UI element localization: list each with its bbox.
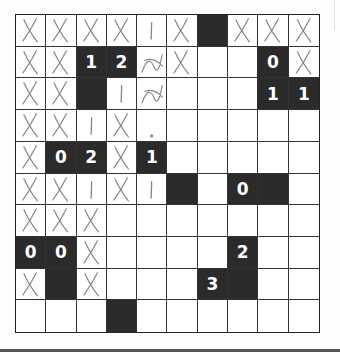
grid-cell[interactable] bbox=[198, 300, 228, 332]
clue-cell: 0 bbox=[46, 237, 76, 269]
clue-cell: 2 bbox=[107, 47, 137, 79]
clue-cell: 0 bbox=[258, 47, 288, 79]
grid-cell[interactable] bbox=[167, 237, 197, 269]
grid-cell[interactable] bbox=[228, 205, 258, 237]
grid-cell[interactable] bbox=[228, 142, 258, 174]
black-cell bbox=[258, 174, 288, 206]
grid-cell[interactable] bbox=[289, 205, 319, 237]
grid-cell[interactable] bbox=[77, 205, 107, 237]
black-cell bbox=[167, 174, 197, 206]
grid-cell[interactable] bbox=[258, 110, 288, 142]
grid-cell[interactable] bbox=[198, 174, 228, 206]
grid-cell[interactable] bbox=[167, 78, 197, 110]
grid-cell[interactable] bbox=[46, 110, 76, 142]
grid-cell[interactable] bbox=[167, 47, 197, 79]
grid-cell[interactable] bbox=[46, 205, 76, 237]
grid-cell[interactable] bbox=[258, 237, 288, 269]
cross-mark-icon bbox=[16, 142, 45, 173]
grid-cell[interactable] bbox=[258, 15, 288, 47]
cross-mark-icon bbox=[77, 15, 106, 46]
grid-cell[interactable] bbox=[258, 300, 288, 332]
grid-cell[interactable] bbox=[198, 47, 228, 79]
grid-cell[interactable] bbox=[46, 174, 76, 206]
grid-cell[interactable] bbox=[46, 47, 76, 79]
grid-cell[interactable] bbox=[289, 300, 319, 332]
grid-cell[interactable] bbox=[77, 237, 107, 269]
grid-cell[interactable] bbox=[167, 269, 197, 301]
grid-cell[interactable] bbox=[228, 78, 258, 110]
grid-cell[interactable] bbox=[107, 237, 137, 269]
grid-cell[interactable] bbox=[137, 47, 167, 79]
grid-cell[interactable] bbox=[107, 142, 137, 174]
grid-cell[interactable] bbox=[16, 110, 46, 142]
grid-cell[interactable] bbox=[77, 110, 107, 142]
grid-cell[interactable] bbox=[107, 15, 137, 47]
grid-cell[interactable] bbox=[137, 205, 167, 237]
cross-mark-icon bbox=[16, 47, 45, 78]
grid-cell[interactable] bbox=[16, 174, 46, 206]
grid-cell[interactable] bbox=[137, 78, 167, 110]
grid-cell[interactable] bbox=[258, 269, 288, 301]
grid-cell[interactable] bbox=[137, 269, 167, 301]
line-mark-icon bbox=[77, 110, 106, 141]
grid-cell[interactable] bbox=[77, 174, 107, 206]
grid-cell[interactable] bbox=[228, 110, 258, 142]
grid-cell[interactable] bbox=[107, 110, 137, 142]
grid-cell[interactable] bbox=[46, 78, 76, 110]
grid-cell[interactable] bbox=[77, 269, 107, 301]
grid-cell[interactable] bbox=[77, 300, 107, 332]
grid-cell[interactable] bbox=[228, 15, 258, 47]
grid-cell[interactable] bbox=[107, 174, 137, 206]
grid-cell[interactable] bbox=[137, 15, 167, 47]
grid-cell[interactable] bbox=[289, 237, 319, 269]
clue-number: 1 bbox=[298, 84, 310, 104]
grid-cell[interactable] bbox=[198, 205, 228, 237]
grid-cell[interactable] bbox=[167, 205, 197, 237]
cross-mark-icon bbox=[16, 15, 45, 46]
grid-cell[interactable] bbox=[16, 300, 46, 332]
grid-cell[interactable] bbox=[16, 47, 46, 79]
grid-cell[interactable] bbox=[289, 269, 319, 301]
grid-cell[interactable] bbox=[16, 205, 46, 237]
grid-cell[interactable] bbox=[46, 15, 76, 47]
cross-mark-icon bbox=[77, 205, 106, 236]
grid-cell[interactable] bbox=[137, 174, 167, 206]
grid-cell[interactable] bbox=[107, 269, 137, 301]
grid-cell[interactable] bbox=[167, 15, 197, 47]
grid-cell[interactable] bbox=[137, 300, 167, 332]
grid-cell[interactable] bbox=[16, 142, 46, 174]
grid-cell[interactable] bbox=[289, 110, 319, 142]
grid-cell[interactable] bbox=[137, 237, 167, 269]
clue-number: 0 bbox=[267, 52, 279, 72]
grid-cell[interactable] bbox=[198, 110, 228, 142]
grid-cell[interactable] bbox=[16, 269, 46, 301]
scribble-mark-icon bbox=[137, 78, 166, 109]
grid-cell[interactable] bbox=[107, 205, 137, 237]
grid-cell[interactable] bbox=[46, 300, 76, 332]
grid-cell[interactable] bbox=[167, 110, 197, 142]
grid-cell[interactable] bbox=[198, 78, 228, 110]
grid-cell[interactable] bbox=[167, 300, 197, 332]
grid-cell[interactable] bbox=[16, 15, 46, 47]
grid-cell[interactable] bbox=[198, 237, 228, 269]
grid-cell[interactable] bbox=[289, 47, 319, 79]
grid-cell[interactable] bbox=[137, 110, 167, 142]
cross-mark-icon bbox=[46, 174, 75, 205]
scribble-mark-icon bbox=[137, 47, 166, 78]
grid-cell[interactable] bbox=[258, 142, 288, 174]
grid-cell[interactable] bbox=[289, 174, 319, 206]
grid-cell[interactable] bbox=[289, 142, 319, 174]
grid-cell[interactable] bbox=[167, 142, 197, 174]
grid-cell[interactable] bbox=[77, 15, 107, 47]
grid-cell[interactable] bbox=[107, 78, 137, 110]
cross-mark-icon bbox=[16, 110, 45, 141]
clue-number: 3 bbox=[207, 274, 219, 294]
grid-cell[interactable] bbox=[258, 205, 288, 237]
clue-cell: 1 bbox=[137, 142, 167, 174]
line-mark-icon bbox=[137, 174, 166, 205]
grid-cell[interactable] bbox=[289, 15, 319, 47]
grid-cell[interactable] bbox=[198, 142, 228, 174]
grid-cell[interactable] bbox=[228, 300, 258, 332]
grid-cell[interactable] bbox=[16, 78, 46, 110]
grid-cell[interactable] bbox=[228, 47, 258, 79]
